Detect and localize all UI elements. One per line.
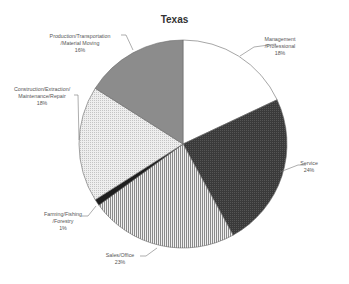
pie-chart: Texas Management/Professional18%Service2… (0, 0, 349, 284)
data-label-line: 1% (44, 225, 82, 232)
data-label-line: Sales/Office (106, 252, 134, 259)
data-label-line: Farming/Fishing (44, 211, 82, 218)
data-label: Management/Professional18% (265, 36, 296, 57)
leader-line (140, 248, 157, 256)
data-label-line: Construction/Extraction/ (14, 86, 70, 93)
data-label-line: /Forestry (44, 218, 82, 225)
data-label-line: 24% (300, 167, 318, 174)
data-label: Production/Transportation/Material Movin… (50, 33, 111, 54)
data-label: Construction/Extraction/Maintenance/Repa… (14, 86, 70, 107)
data-label-line: Maintenance/Repair (14, 93, 70, 100)
data-label: Farming/Fishing/Forestry1% (44, 211, 82, 232)
data-label: Sales/Office23% (106, 252, 134, 266)
data-label-line: Production/Transportation (50, 33, 111, 40)
data-label-line: 23% (106, 259, 134, 266)
leader-line (74, 95, 79, 140)
chart-title: Texas (0, 14, 349, 25)
data-label-line: 18% (265, 50, 296, 57)
leader-line (121, 35, 133, 50)
leader-line (82, 206, 96, 216)
data-label-line: Service (300, 160, 318, 167)
data-label-line: 16% (50, 47, 111, 54)
data-label-line: Management (265, 36, 296, 43)
data-label-line: 18% (14, 100, 70, 107)
data-label-line: /Professional (265, 43, 296, 50)
data-label: Service24% (300, 160, 318, 174)
data-label-line: /Material Moving (50, 40, 111, 47)
